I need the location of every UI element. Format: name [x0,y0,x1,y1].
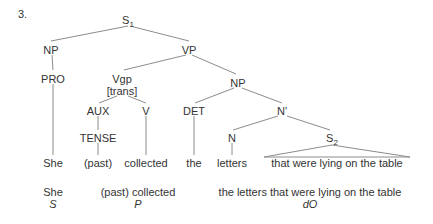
edge-s1-vp [130,26,189,41]
terminal-collected: collected [124,157,167,169]
terminal-the: the [186,157,201,169]
node-n: N [228,132,236,144]
edge-np2-det [195,88,234,103]
gloss-predicate-tag: P [101,198,176,211]
edge-np1-pro [52,55,53,70]
gloss-direct-object-words: the letters that were lying on the table [219,186,402,198]
node-np-object: NP [230,77,245,89]
edge-nbar-n [233,116,278,130]
node-vgp-feature: [trans] [107,85,138,97]
node-s2: S2 [326,132,338,149]
edge-np2-nbar [242,88,282,103]
gloss-direct-object: the letters that were lying on the table… [219,186,402,211]
node-vgp: Vgp [trans] [107,73,138,97]
gloss-direct-object-tag: dO [219,198,402,211]
terminal-past: (past) [84,157,112,169]
node-s1: S1 [122,14,134,31]
edge-vp-np2 [192,55,236,74]
terminal-she: She [43,157,63,169]
syntax-tree-figure: 3. S1 [0,0,433,224]
terminal-letters: letters [217,157,247,169]
node-v: V [142,105,149,117]
node-np-subject: NP [43,44,58,56]
gloss-subject-tag: S [43,198,63,211]
edge-vgp-aux [99,96,117,103]
edge-nbar-s2 [287,116,330,130]
node-det: DET [183,105,205,117]
gloss-subject-words: She [43,186,63,198]
node-tense: TENSE [80,132,117,144]
gloss-predicate-words: (past) collected [101,186,176,198]
node-pro: PRO [41,73,65,85]
node-aux: AUX [87,105,110,117]
edge-vgp-v [128,96,146,103]
edge-vp-vgp [124,55,186,70]
gloss-predicate: (past) collected P [101,186,176,211]
node-vp: VP [182,44,197,56]
edge-s1-np1 [51,26,128,41]
gloss-subject: She S [43,186,63,211]
node-vgp-label: Vgp [107,73,138,85]
node-n-bar: N' [277,105,287,117]
terminal-relative-clause: that were lying on the table [271,157,402,169]
